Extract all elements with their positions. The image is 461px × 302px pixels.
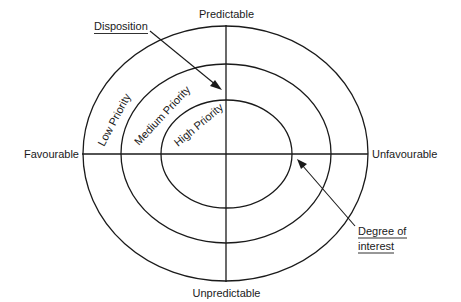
axis-label-bottom: Unpredictable bbox=[193, 287, 261, 299]
callout-degree-arrowhead-icon bbox=[297, 159, 307, 169]
callout-disposition-text: Disposition bbox=[94, 20, 148, 32]
callout-disposition-arrow-line bbox=[150, 31, 216, 85]
axis-label-right: Unfavourable bbox=[372, 148, 437, 160]
callout-degree-text-line2: interest bbox=[358, 240, 394, 252]
axis-label-left: Favourable bbox=[24, 148, 79, 160]
callout-degree-text-line1: Degree of bbox=[358, 225, 407, 237]
priority-diagram: Predictable Unpredictable Favourable Unf… bbox=[0, 0, 461, 302]
callout-degree-of-interest: Degree of interest bbox=[297, 159, 407, 253]
axis-label-top: Predictable bbox=[199, 8, 254, 20]
ring-label-low-priority: Low Priority bbox=[95, 91, 133, 148]
ring-label-high-priority: High Priority bbox=[172, 101, 226, 149]
callout-disposition: Disposition bbox=[94, 20, 222, 90]
